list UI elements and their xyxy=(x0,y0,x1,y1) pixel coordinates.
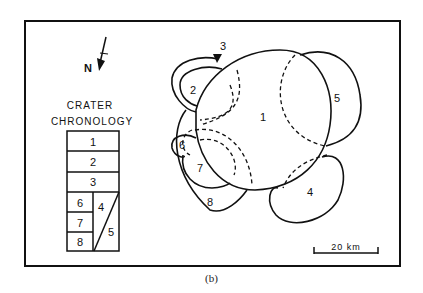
scale-bar-label: 20 km xyxy=(331,242,361,252)
crater-label-4: 4 xyxy=(307,186,313,198)
crater-label-2: 2 xyxy=(190,84,196,96)
crater-outlines xyxy=(172,50,361,223)
crater-label-7: 7 xyxy=(197,162,203,174)
figure-caption: (b) xyxy=(0,272,423,284)
crater-label-3: 3 xyxy=(220,40,226,52)
north-arrow-icon xyxy=(97,37,108,71)
crater-label-5: 5 xyxy=(334,92,340,104)
legend-cell-4: 4 xyxy=(98,201,104,213)
legend-cell-6: 6 xyxy=(77,197,83,209)
crater-2-rim xyxy=(180,67,222,106)
legend-row-2: 2 xyxy=(90,156,96,168)
legend-cell-5: 5 xyxy=(108,226,114,238)
legend-cell-7: 7 xyxy=(77,217,83,229)
legend-row-3: 3 xyxy=(90,176,96,188)
legend-row-1: 1 xyxy=(90,136,96,148)
buried-rims xyxy=(183,55,327,188)
north-label: N xyxy=(84,62,92,74)
legend-title-line2: CHRONOLOGY xyxy=(51,116,133,127)
crater-label-1: 1 xyxy=(260,111,266,123)
crater-diagram: N CRATER CHRONOLOGY 1 2 3 6 7 8 4 5 xyxy=(0,0,423,293)
legend-cell-8: 8 xyxy=(77,236,83,248)
crater-label-6: 6 xyxy=(179,139,185,151)
legend-title-line1: CRATER xyxy=(67,100,113,111)
crater-label-8: 8 xyxy=(207,196,213,208)
